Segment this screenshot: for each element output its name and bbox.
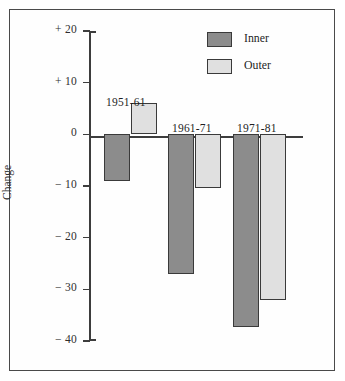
category-label-1961-71: 1961-71 xyxy=(172,122,212,134)
y-tick-10 xyxy=(83,82,90,84)
chart-figure: + 20+ 100− 10− 20− 30− 40 Change 1951-61… xyxy=(0,0,345,381)
y-tick-label-10: + 10 xyxy=(33,75,77,87)
bar-1971-81-outer[interactable] xyxy=(260,134,286,299)
category-label-1951-61: 1951-61 xyxy=(106,96,146,108)
category-label-1971-81: 1971-81 xyxy=(237,122,277,134)
y-axis-bottom-cap xyxy=(89,339,96,341)
y-tick-label--30: − 30 xyxy=(33,281,77,293)
legend-swatch-inner-icon xyxy=(207,32,232,47)
y-tick--20 xyxy=(83,237,90,239)
bar-1971-81-inner[interactable] xyxy=(233,134,259,327)
y-tick-20 xyxy=(83,30,90,32)
y-tick--30 xyxy=(83,289,90,291)
y-tick-label-20: + 20 xyxy=(33,23,77,35)
y-axis-label: Change xyxy=(0,184,59,200)
legend-label-inner: Inner xyxy=(244,31,269,46)
bar-1961-71-inner[interactable] xyxy=(168,134,194,274)
y-tick--10 xyxy=(83,185,90,187)
y-axis-top-cap xyxy=(89,31,96,33)
y-tick-label--20: − 20 xyxy=(33,230,77,242)
legend-swatch-outer-icon xyxy=(207,59,232,74)
y-tick-label--40: − 40 xyxy=(33,333,77,345)
plot-area: + 20+ 100− 10− 20− 30− 40 Change 1951-61… xyxy=(0,0,345,381)
bar-1951-61-inner[interactable] xyxy=(104,134,130,181)
y-tick-label-0: 0 xyxy=(33,126,77,138)
y-tick-0 xyxy=(83,134,90,136)
bar-1961-71-outer[interactable] xyxy=(195,134,221,187)
legend-label-outer: Outer xyxy=(244,58,271,73)
y-tick--40 xyxy=(83,340,90,342)
